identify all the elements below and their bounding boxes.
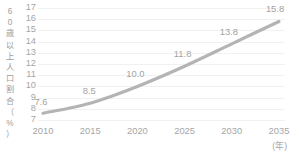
gridline [38, 120, 285, 121]
data-point-label: 7.6 [34, 98, 47, 107]
series-line [38, 8, 285, 120]
y-axis-tick-label: 13 [10, 48, 36, 57]
x-axis-tick-label: 2035 [269, 126, 290, 135]
x-axis-tick-label: 2020 [127, 126, 148, 135]
y-axis-tick-label: 9 [10, 93, 36, 102]
y-axis-tick-label: 14 [10, 37, 36, 46]
x-axis-tick-label: 2010 [33, 126, 54, 135]
data-point-label: 13.8 [220, 27, 238, 36]
data-point-label: 8.5 [83, 86, 96, 95]
y-axis-tick-label: 10 [10, 82, 36, 91]
y-axis-tick-label: 16 [10, 15, 36, 24]
x-axis-tick-label: 2025 [174, 126, 195, 135]
series-path [43, 21, 279, 113]
data-point-label: 11.8 [174, 50, 192, 59]
plot-area: 7.68.510.011.813.815.8 [38, 8, 285, 120]
x-axis-unit-label: (年) [272, 142, 287, 151]
line-chart: 60歳以上人口割合（%） 1716151413121110987 7.68.51… [0, 0, 290, 160]
y-axis-tick-label: 15 [10, 26, 36, 35]
y-axis-tick-label: 7 [10, 115, 36, 124]
data-point-label: 10.0 [126, 70, 144, 79]
x-axis-tick-labels: 201020152020202520302035 [38, 126, 285, 140]
data-point-label: 15.8 [266, 5, 284, 14]
y-axis-tick-labels: 1716151413121110987 [8, 0, 36, 160]
y-axis-tick-label: 8 [10, 104, 36, 113]
y-axis-tick-label: 12 [10, 59, 36, 68]
y-axis-tick-label: 17 [10, 3, 36, 12]
x-axis-tick-label: 2015 [80, 126, 101, 135]
x-axis-tick-label: 2030 [221, 126, 242, 135]
y-axis-tick-label: 11 [10, 71, 36, 80]
